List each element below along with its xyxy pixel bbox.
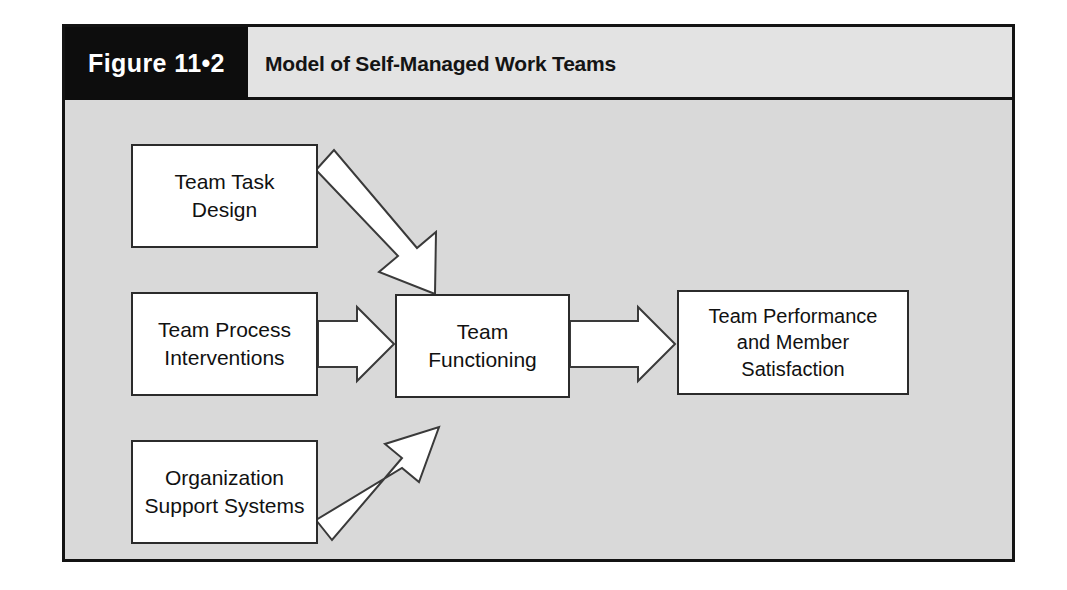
edge-task-to-functioning-arrow (316, 150, 436, 294)
node-organization-support-systems[interactable]: Organization Support Systems (131, 440, 318, 544)
node-team-performance-and-member-satisfaction[interactable]: Team Performance and Member Satisfaction (677, 290, 909, 395)
node-organization-support-systems-label: Organization Support Systems (145, 464, 305, 519)
diagram-canvas: Team Task Design Team Process Interventi… (65, 100, 1012, 559)
node-team-functioning-label: Team Functioning (428, 318, 537, 373)
figure-number-tab: Figure 11•2 (65, 27, 248, 100)
node-team-performance-and-member-satisfaction-label: Team Performance and Member Satisfaction (709, 303, 878, 382)
edge-support-to-functioning-arrow (316, 427, 439, 540)
figure-header: Figure 11•2 Model of Self-Managed Work T… (65, 27, 1012, 100)
figure-title: Model of Self-Managed Work Teams (265, 27, 616, 100)
figure-frame: Figure 11•2 Model of Self-Managed Work T… (62, 24, 1015, 562)
node-team-task-design-label: Team Task Design (175, 168, 275, 223)
figure-number-label: Figure 11•2 (88, 49, 225, 78)
edge-functioning-to-performance-arrow (570, 307, 675, 381)
node-team-process-interventions-label: Team Process Interventions (158, 316, 291, 371)
node-team-process-interventions[interactable]: Team Process Interventions (131, 292, 318, 396)
node-team-task-design[interactable]: Team Task Design (131, 144, 318, 248)
node-team-functioning[interactable]: Team Functioning (395, 294, 570, 398)
edge-process-to-functioning-arrow (318, 307, 394, 381)
